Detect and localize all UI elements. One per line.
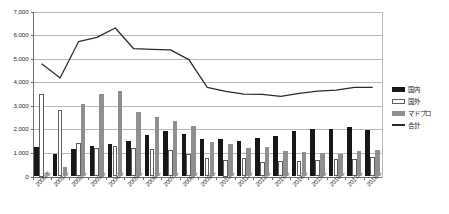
- chart-legend: 国内 国外 マドプロ 合計: [392, 84, 449, 132]
- bar-madrid: [320, 153, 325, 176]
- bar-domestic: [365, 130, 370, 177]
- legend-item-domestic[interactable]: 国内: [392, 84, 449, 94]
- bar-domestic: [71, 149, 76, 177]
- bar-overseas: [242, 158, 247, 176]
- bar-domestic: [200, 139, 205, 177]
- bar-madrid: [302, 152, 307, 176]
- legend-label: 国外: [408, 97, 420, 106]
- bar-overseas: [370, 157, 375, 177]
- bar-overseas: [131, 148, 136, 176]
- y-axis-tick-label: 5,000: [3, 55, 29, 62]
- y-axis-tick-label: 0: [3, 173, 29, 180]
- bar-domestic: [34, 147, 39, 176]
- bar-overseas: [39, 94, 44, 177]
- bar-domestic: [163, 131, 168, 176]
- bar-domestic: [273, 136, 278, 177]
- bar-overseas: [186, 154, 191, 177]
- gridline: [33, 59, 383, 60]
- legend-label: マドプロ: [408, 109, 431, 118]
- bar-overseas: [94, 148, 99, 177]
- bar-madrid: [246, 148, 251, 177]
- bar-domestic: [292, 131, 297, 177]
- bar-overseas: [315, 160, 320, 176]
- bar-domestic: [182, 134, 187, 176]
- bar-domestic: [218, 139, 223, 176]
- legend-label: 合計: [408, 121, 420, 130]
- bar-madrid: [118, 91, 123, 176]
- x-axis-tick: [216, 178, 217, 180]
- bar-domestic: [145, 135, 150, 176]
- bar-overseas: [352, 159, 357, 176]
- bar-domestic: [255, 138, 260, 177]
- bar-madrid: [210, 142, 215, 176]
- bar-overseas: [278, 161, 283, 177]
- bar-madrid: [136, 112, 141, 177]
- y-axis-tick-label: 7,000: [3, 8, 29, 15]
- bar-domestic: [329, 129, 334, 176]
- y-axis-tick-label: 4,000: [3, 78, 29, 85]
- bar-madrid: [81, 104, 86, 177]
- bar-overseas: [76, 143, 81, 177]
- plot-right-border: [382, 12, 383, 178]
- bar-madrid: [191, 126, 196, 177]
- bar-madrid: [357, 151, 362, 176]
- bar-overseas: [297, 161, 302, 176]
- bar-overseas: [113, 146, 118, 177]
- bar-overseas: [168, 150, 173, 177]
- bar-overseas: [205, 158, 210, 177]
- line-dark-icon: [392, 124, 405, 125]
- bar-madrid: [338, 154, 343, 176]
- y-axis-tick-label: 3,000: [3, 102, 29, 109]
- bar-domestic: [347, 127, 352, 176]
- swatch-filled-gray-icon: [392, 111, 405, 116]
- bar-madrid: [173, 121, 178, 177]
- bar-domestic: [310, 129, 315, 177]
- bar-madrid: [375, 150, 380, 176]
- legend-item-madrid[interactable]: マドプロ: [392, 108, 449, 118]
- bar-overseas: [223, 160, 228, 177]
- bar-overseas: [260, 162, 265, 176]
- bar-overseas: [334, 159, 339, 177]
- y-axis-tick-label: 6,000: [3, 31, 29, 38]
- bar-madrid: [228, 144, 233, 176]
- bar-domestic: [237, 141, 242, 177]
- bar-madrid: [99, 94, 104, 177]
- y-axis-tick-label: 1,000: [3, 149, 29, 156]
- bar-domestic: [90, 146, 95, 176]
- total-line-path: [42, 28, 373, 96]
- gridline: [33, 82, 383, 83]
- bar-overseas: [150, 149, 155, 177]
- bar-madrid: [283, 151, 288, 176]
- bar-domestic: [53, 154, 58, 176]
- bar-madrid: [155, 117, 160, 177]
- bar-domestic: [108, 144, 113, 177]
- x-axis-tick: [308, 178, 309, 180]
- legend-item-overseas[interactable]: 国外: [392, 96, 449, 106]
- legend-label: 国内: [408, 85, 420, 94]
- gridline: [33, 35, 383, 36]
- legend-item-total[interactable]: 合計: [392, 120, 449, 130]
- bar-overseas: [58, 110, 63, 177]
- swatch-outlined-white-icon: [392, 99, 405, 104]
- chart-container: 01,0002,0003,0004,0005,0006,0007,000 200…: [0, 0, 449, 214]
- bar-madrid: [265, 147, 270, 177]
- bar-madrid: [63, 167, 68, 177]
- x-axis-tick: [124, 178, 125, 180]
- swatch-filled-dark-icon: [392, 87, 405, 92]
- bar-domestic: [126, 141, 131, 177]
- y-axis-tick-label: 2,000: [3, 125, 29, 132]
- gridline: [33, 12, 383, 13]
